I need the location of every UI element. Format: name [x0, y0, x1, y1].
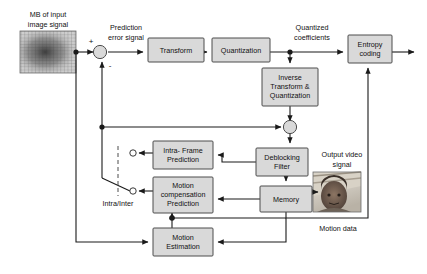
- block-inverse-tq-label-line2: Transform &: [270, 82, 309, 91]
- annotation-pred-error-line2: error signal: [108, 33, 144, 42]
- annotation-output-video-line1: Output video: [322, 150, 363, 159]
- video-encoder-diagram: Transform Quantization Entropy coding In…: [0, 0, 427, 274]
- block-intra-frame-prediction[interactable]: Intra- Frame Prediction: [153, 141, 213, 169]
- block-inverse-tq-label-line3: Quantization: [270, 91, 310, 100]
- block-deblocking-filter[interactable]: Deblocking Filter: [256, 148, 308, 176]
- summing-junction-reconstruction: [283, 120, 296, 133]
- block-entropy-coding-label-line2: coding: [359, 49, 380, 58]
- annotation-quantized-coefficients: Quantized coefficients: [294, 23, 330, 42]
- diagram-canvas: Transform Quantization Entropy coding In…: [0, 0, 427, 274]
- block-quantization-label: Quantization: [221, 46, 261, 55]
- annotation-mb-line2: image signal: [28, 20, 69, 29]
- block-motion-est-label-line2: Estimation: [166, 242, 200, 251]
- switch-contact-intra[interactable]: [130, 150, 136, 156]
- block-entropy-coding-label-line1: Entropy: [358, 40, 383, 49]
- wire-input-to-motion-estimation: [76, 52, 148, 242]
- annotation-pred-error-line1: Prediction: [110, 23, 142, 32]
- input-macroblock-thumbnail: [20, 31, 76, 73]
- annotation-motion-data: Motion data: [319, 224, 357, 233]
- summing-junction-prediction-error: [93, 45, 106, 58]
- block-deblocking-label-line2: Filter: [274, 162, 291, 171]
- wire-memory-to-motion-estimation: [218, 218, 286, 242]
- annotation-intra-inter: Intra/Inter: [103, 199, 134, 208]
- block-intra-label-line1: Intra- Frame: [163, 146, 203, 155]
- output-video-thumbnail: [313, 172, 361, 212]
- block-motion-estimation[interactable]: Motion Estimation: [153, 228, 213, 256]
- switch-contact-inter[interactable]: [130, 188, 136, 194]
- annotation-output-video-signal: Output video signal: [322, 150, 363, 169]
- sign-plus: +: [89, 37, 94, 46]
- block-motion-comp-label-line3: Prediction: [167, 199, 199, 208]
- block-transform-label: Transform: [160, 46, 192, 55]
- annotation-quant-coeff-line1: Quantized: [296, 23, 329, 32]
- minus-sign-label: -: [109, 61, 112, 70]
- plus-sign-label: +: [89, 37, 94, 46]
- block-intra-label-line2: Prediction: [167, 155, 199, 164]
- block-memory-label: Memory: [273, 195, 299, 204]
- annotation-quant-coeff-line2: coefficients: [294, 33, 330, 42]
- annotation-prediction-error-signal: Prediction error signal: [108, 23, 144, 42]
- block-entropy-coding[interactable]: Entropy coding: [348, 35, 392, 63]
- block-motion-est-label-line1: Motion: [172, 233, 194, 242]
- block-inverse-tq-label-line1: Inverse: [278, 73, 302, 82]
- wire-deblocking-to-intra: [218, 155, 256, 162]
- annotation-output-video-line2: signal: [333, 160, 352, 169]
- annotation-motion-data-label: Motion data: [319, 224, 357, 233]
- block-motion-compensation-prediction[interactable]: Motion compensation Prediction: [153, 177, 213, 213]
- block-motion-comp-label-line1: Motion: [172, 181, 194, 190]
- block-memory[interactable]: Memory: [260, 186, 312, 212]
- block-quantization[interactable]: Quantization: [212, 38, 270, 62]
- junction-dot-motion-data: [169, 215, 175, 221]
- block-motion-comp-label-line2: compensation: [161, 190, 206, 199]
- block-deblocking-label-line1: Deblocking: [264, 153, 300, 162]
- block-transform[interactable]: Transform: [148, 38, 204, 62]
- annotation-intra-inter-label: Intra/Inter: [103, 199, 134, 208]
- block-inverse-transform-quantization[interactable]: Inverse Transform & Quantization: [262, 68, 318, 106]
- sign-minus: -: [109, 61, 112, 70]
- intra-inter-switch-arm[interactable]: [102, 178, 130, 191]
- annotation-mb-of-input-image-signal: MB of input image signal: [28, 10, 69, 29]
- annotation-mb-line1: MB of input: [30, 10, 66, 19]
